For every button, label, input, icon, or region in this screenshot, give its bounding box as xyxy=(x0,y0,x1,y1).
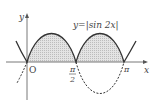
y-axis-label: y xyxy=(18,12,25,22)
tick-half-pi-denominator: 2 xyxy=(69,75,75,84)
curve-sin-2x-negative-dashed xyxy=(17,62,27,83)
tick-pi: π xyxy=(123,65,130,74)
y-axis-arrow-icon xyxy=(25,13,29,18)
tick-half-pi-numerator: π xyxy=(69,65,76,74)
graph-abs-sin-2x: y x O y=|sin 2x| π 2 π xyxy=(0,0,158,103)
shaded-region-2 xyxy=(76,34,124,63)
curve-sin-2x-trough-dashed xyxy=(76,62,124,94)
x-axis-arrow-icon xyxy=(143,60,148,64)
shaded-region-1 xyxy=(27,34,76,63)
origin-label: O xyxy=(29,65,36,75)
x-axis-label: x xyxy=(144,65,149,75)
equation-label: y=|sin 2x| xyxy=(72,20,119,31)
